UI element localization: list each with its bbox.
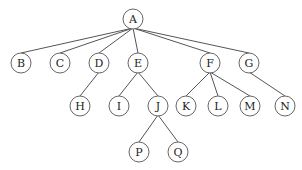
tree-node-a: A bbox=[123, 9, 143, 29]
node-label: P bbox=[135, 146, 143, 159]
tree-node-g: G bbox=[239, 53, 259, 73]
node-label: A bbox=[128, 13, 138, 26]
edge-a-g bbox=[133, 28, 249, 53]
node-label: I bbox=[117, 100, 121, 113]
node-label: F bbox=[206, 57, 214, 70]
tree-node-l: L bbox=[208, 96, 228, 116]
node-label: M bbox=[244, 100, 255, 113]
tree-node-b: B bbox=[11, 53, 31, 73]
node-label: B bbox=[17, 57, 25, 70]
tree-node-i: I bbox=[109, 96, 129, 116]
node-label: L bbox=[214, 100, 222, 113]
node-label: Q bbox=[173, 146, 182, 159]
tree-node-q: Q bbox=[168, 142, 188, 162]
edge-f-k bbox=[186, 72, 210, 96]
edge-e-j bbox=[138, 72, 158, 96]
edge-a-f bbox=[133, 28, 210, 53]
node-label: E bbox=[134, 57, 142, 70]
node-label: H bbox=[75, 100, 85, 113]
tree-node-j: J bbox=[148, 96, 168, 116]
tree-node-m: M bbox=[240, 96, 260, 116]
node-label: K bbox=[182, 100, 191, 113]
edge-g-n bbox=[249, 72, 285, 96]
edge-a-c bbox=[60, 28, 133, 53]
edge-j-q bbox=[158, 115, 178, 142]
edge-a-e bbox=[133, 28, 138, 53]
tree-node-k: K bbox=[176, 96, 196, 116]
node-label: J bbox=[155, 100, 160, 113]
edge-j-p bbox=[139, 115, 158, 142]
edge-d-h bbox=[80, 72, 99, 96]
node-label: D bbox=[95, 57, 104, 70]
tree-node-c: C bbox=[50, 53, 70, 73]
tree-node-f: F bbox=[200, 53, 220, 73]
tree-edges bbox=[21, 28, 285, 142]
tree-node-e: E bbox=[128, 53, 148, 73]
node-label: G bbox=[245, 57, 254, 70]
tree-node-h: H bbox=[70, 96, 90, 116]
tree-node-d: D bbox=[89, 53, 109, 73]
edge-f-m bbox=[210, 72, 250, 96]
node-label: C bbox=[56, 57, 64, 70]
tree-node-p: P bbox=[129, 142, 149, 162]
edge-e-i bbox=[119, 72, 138, 96]
tree-node-n: N bbox=[275, 96, 295, 116]
node-label: N bbox=[280, 100, 290, 113]
tree-diagram: ABCDEFGHIJKLMNPQ bbox=[0, 0, 302, 170]
